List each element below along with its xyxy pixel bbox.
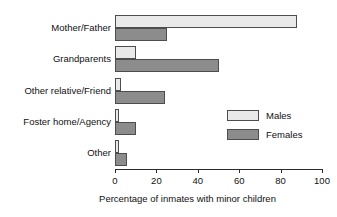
chart-legend: Males Females (227, 108, 302, 146)
x-tick-20 (156, 169, 157, 173)
bar-females-2 (115, 91, 165, 104)
bar-group-0 (115, 15, 322, 41)
category-label-other: Other (0, 148, 111, 158)
category-label-other-relative-friend: Other relative/Friend (0, 86, 111, 96)
x-tick-60 (239, 169, 240, 173)
legend-item-males: Males (227, 108, 302, 122)
legend-item-females: Females (227, 127, 302, 141)
bar-males-1 (115, 46, 136, 59)
bar-group-1 (115, 46, 322, 72)
x-axis-line (115, 169, 323, 170)
bar-males-2 (115, 78, 121, 91)
x-tick-label-80: 80 (275, 175, 286, 186)
category-axis-labels: Mother/Father Grandparents Other relativ… (0, 12, 111, 169)
x-axis-title: Percentage of inmates with minor childre… (0, 193, 337, 204)
legend-swatch-males-icon (227, 110, 259, 121)
bar-males-3 (115, 109, 119, 122)
x-tick-label-0: 0 (112, 175, 117, 186)
legend-label-females: Females (266, 129, 302, 140)
category-label-grandparents: Grandparents (0, 54, 111, 64)
bar-females-1 (115, 59, 219, 72)
x-tick-80 (281, 169, 282, 173)
bar-males-4 (115, 140, 119, 153)
x-tick-label-40: 40 (193, 175, 204, 186)
category-label-mother-father: Mother/Father (0, 23, 111, 33)
category-label-foster-home-agency: Foster home/Agency (0, 117, 111, 127)
x-tick-100 (322, 169, 323, 173)
x-tick-label-100: 100 (314, 175, 330, 186)
bar-females-4 (115, 153, 127, 166)
bar-group-2 (115, 78, 322, 104)
legend-label-males: Males (266, 110, 291, 121)
x-tick-40 (198, 169, 199, 173)
x-tick-0 (115, 169, 116, 173)
x-tick-label-20: 20 (151, 175, 162, 186)
bar-males-0 (115, 15, 297, 28)
bar-females-3 (115, 122, 136, 135)
x-axis-title-text: Percentage of inmates with minor childre… (99, 193, 276, 204)
x-tick-label-60: 60 (234, 175, 245, 186)
legend-swatch-females-icon (227, 129, 259, 140)
bar-females-0 (115, 28, 167, 41)
bar-chart: Mother/Father Grandparents Other relativ… (0, 0, 337, 217)
